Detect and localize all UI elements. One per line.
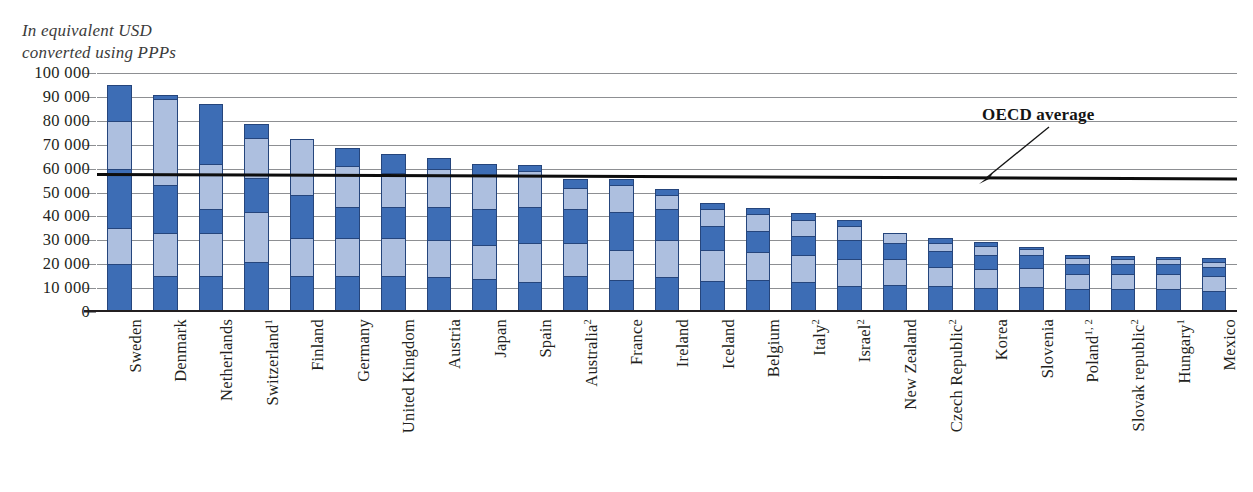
bar[interactable] [1156, 257, 1181, 312]
bar-segment [1065, 255, 1090, 258]
bar[interactable] [1202, 258, 1227, 312]
bar-segment [199, 276, 224, 312]
bar[interactable] [791, 213, 816, 312]
bar[interactable] [1065, 255, 1090, 312]
x-axis-label: Switzerland1 [263, 319, 283, 405]
bar-segment [746, 208, 771, 214]
bar-segment [1065, 274, 1090, 290]
bar-segment [381, 276, 406, 312]
bar-segment [518, 243, 543, 282]
bar-segment [700, 226, 725, 250]
bar-segment [837, 220, 862, 226]
bar-segment [1156, 259, 1181, 264]
bar-segment [107, 85, 132, 121]
bar[interactable] [290, 139, 315, 312]
bar-segment [244, 178, 269, 211]
bar-segment [290, 195, 315, 238]
bar-segment [1156, 274, 1181, 290]
bar[interactable] [1111, 256, 1136, 312]
bar-segment [700, 203, 725, 209]
bar[interactable] [153, 95, 178, 312]
category-footnote-marker: 2 [581, 319, 592, 324]
y-tick-label: 0 [81, 302, 90, 322]
bar-segment [700, 281, 725, 312]
bar[interactable] [199, 104, 224, 312]
bar[interactable] [107, 85, 132, 312]
bar-segment [1111, 259, 1136, 264]
bar-segment [427, 277, 452, 312]
bar-segment [381, 207, 406, 238]
chart-caption: In equivalent USD converted using PPPs [22, 20, 176, 64]
bar-segment [1065, 264, 1090, 274]
x-axis-label: Slovenia [1038, 319, 1058, 378]
bar-segment [746, 214, 771, 231]
bar-segment [563, 209, 588, 242]
bar-segment [1202, 262, 1227, 267]
category-footnote-marker: 1, 2 [1083, 319, 1094, 336]
bar-segment [335, 166, 360, 207]
bar-segment [1065, 289, 1090, 312]
bar-segment [1111, 264, 1136, 274]
x-axis-label: Czech Republic2 [947, 319, 967, 432]
y-tick-label: 60 000 [43, 159, 90, 179]
bar-segment [199, 233, 224, 276]
y-tick-label: 20 000 [43, 254, 90, 274]
bar-segment [427, 158, 452, 169]
bar-segment [1111, 256, 1136, 259]
x-axis-label: Poland1, 2 [1083, 319, 1103, 383]
x-axis-label: Netherlands [217, 319, 237, 401]
bar-segment [518, 282, 543, 312]
x-axis-label: Korea [992, 319, 1012, 360]
bar[interactable] [1019, 247, 1044, 312]
bar-segment [290, 238, 315, 276]
x-axis-label: France [627, 319, 647, 365]
bar-segment [928, 243, 953, 251]
bar-segment [563, 243, 588, 276]
bar[interactable] [244, 124, 269, 312]
bar[interactable] [655, 189, 680, 312]
bar-segment [107, 169, 132, 229]
bar-segment [199, 104, 224, 164]
bar-segment [335, 238, 360, 276]
bar-segment [791, 220, 816, 236]
bar-segment [700, 250, 725, 281]
bar-segment [883, 259, 908, 284]
bar-segment [107, 264, 132, 312]
bar-segment [153, 95, 178, 100]
y-tick-label: 30 000 [43, 230, 90, 250]
y-tick-label: 80 000 [43, 111, 90, 131]
bar[interactable] [974, 242, 999, 313]
bar[interactable] [928, 238, 953, 312]
oecd-average-label: OECD average [982, 105, 1094, 125]
bar[interactable] [746, 208, 771, 312]
bar[interactable] [518, 165, 543, 312]
bar-segment [472, 209, 497, 245]
bar[interactable] [837, 220, 862, 312]
bar[interactable] [472, 164, 497, 312]
bar-segment [1202, 291, 1227, 313]
bar-segment [563, 179, 588, 187]
bar-segment [244, 138, 269, 179]
bar-segment [153, 233, 178, 276]
bar-segment [791, 255, 816, 282]
bar-segment [655, 277, 680, 312]
bar-segment [1019, 268, 1044, 287]
bar[interactable] [427, 158, 452, 312]
bar-segment [1019, 255, 1044, 268]
bar[interactable] [563, 179, 588, 312]
bar[interactable] [700, 203, 725, 312]
bar-segment [928, 267, 953, 286]
bar[interactable] [609, 179, 634, 312]
bar-segment [974, 242, 999, 247]
bar-segment [837, 226, 862, 240]
bar-segment [974, 269, 999, 288]
bar[interactable] [883, 233, 908, 312]
x-axis-baseline [84, 310, 1237, 312]
bar[interactable] [381, 154, 406, 312]
bar-segment [290, 139, 315, 195]
x-axis-label: Australia2 [582, 319, 602, 387]
bar[interactable] [335, 148, 360, 312]
bar-segment [1111, 289, 1136, 312]
bar-segment [244, 262, 269, 312]
bar-segment [427, 240, 452, 277]
